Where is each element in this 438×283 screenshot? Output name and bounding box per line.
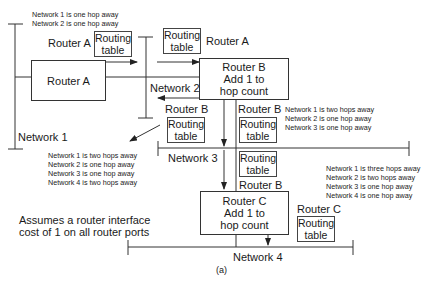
routing-table-label: Routing — [164, 29, 200, 41]
router-b-label-right: Router B — [238, 103, 281, 115]
routing-table-label: Routing — [95, 32, 131, 44]
network-4-label: Network 4 — [233, 251, 283, 263]
routing-table-b-left: Routing table — [167, 117, 205, 143]
router-b-box: Router B Add 1 to hop count — [199, 58, 289, 100]
router-b-label-lower: Router B — [239, 179, 282, 191]
table-line: Network 3 is one hop away — [48, 169, 137, 178]
routing-table-label: Routing — [298, 217, 334, 229]
router-c-line: hop count — [220, 219, 268, 231]
routing-table-label: Routing — [240, 118, 276, 130]
router-c-line: Add 1 to — [224, 207, 265, 219]
router-a-box: Router A — [31, 60, 106, 101]
network-2-label: Network 2 — [150, 82, 200, 94]
table-line: Network 2 is one hop away — [285, 114, 374, 123]
routing-table-label: table — [102, 44, 125, 56]
table-line: Network 2 is two hops away — [326, 173, 420, 182]
router-c-n4-table-text: Network 1 is three hops away Network 2 i… — [326, 164, 420, 200]
routing-table-a: Routing table — [94, 31, 132, 57]
routing-table-label: Routing — [168, 118, 204, 130]
router-a-name: Router A — [47, 75, 90, 87]
routing-table-b-right: Routing table — [239, 117, 277, 143]
table-line: Network 4 is one hop away — [326, 191, 420, 200]
table-line: Network 1 is two hops away — [48, 151, 137, 160]
router-a-label: Router A — [48, 37, 91, 49]
table-line: Network 2 is one hop away — [48, 160, 137, 169]
figure-caption: (a) — [216, 264, 227, 276]
router-a-label-2: Router A — [206, 35, 249, 47]
note-line: Assumes a router interface — [19, 214, 150, 226]
network-1-label: Network 1 — [18, 131, 68, 143]
router-b-name: Router B — [222, 61, 265, 73]
assumption-note: Assumes a router interface cost of 1 on … — [19, 214, 150, 238]
routing-table-b-lower: Routing table — [239, 151, 277, 177]
table-line: Network 2 is one hop away — [32, 19, 118, 28]
router-c-label: Router C — [297, 203, 341, 215]
router-c-box: Router C Add 1 to hop count — [200, 191, 289, 235]
routing-table-label: table — [247, 130, 270, 142]
table-line: Network 4 is two hops away — [48, 178, 137, 187]
note-line: cost of 1 on all router ports — [19, 226, 150, 238]
routing-table-label: table — [247, 164, 270, 176]
routing-table-c: Routing table — [297, 216, 335, 242]
table-line: Network 1 is two hops away — [285, 105, 374, 114]
routing-table-label: table — [171, 41, 194, 53]
router-c-name: Router C — [222, 195, 266, 207]
network-3-label: Network 3 — [168, 152, 218, 164]
router-a-table-text: Network 1 is one hop away Network 2 is o… — [32, 10, 118, 28]
routing-table-label: table — [305, 229, 328, 241]
table-line: Network 3 is one hop away — [326, 182, 420, 191]
routing-table-label: Routing — [240, 152, 276, 164]
router-b-line: hop count — [220, 85, 268, 97]
table-line: Network 1 is one hop away — [32, 10, 118, 19]
table-line: Network 1 is three hops away — [326, 164, 420, 173]
table-line: Network 3 is one hop away — [285, 123, 374, 132]
router-b-line: Add 1 to — [224, 73, 265, 85]
router-b-label-left: Router B — [165, 103, 208, 115]
router-b-n3-table-text: Network 1 is two hops away Network 2 is … — [285, 105, 374, 132]
routing-table-label: table — [175, 130, 198, 142]
router-b-n2-table-text: Network 1 is two hops away Network 2 is … — [48, 151, 137, 187]
routing-table-a2: Routing table — [163, 28, 201, 54]
